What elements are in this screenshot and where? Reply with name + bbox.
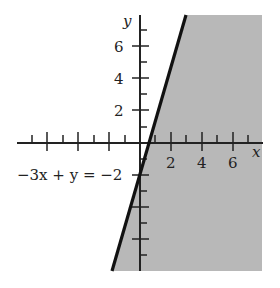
- x-tick-label-4: 4: [197, 154, 207, 172]
- equation-label: −3x + y = −2: [17, 166, 122, 184]
- y-tick-label-2: 2: [114, 102, 124, 120]
- x-axis-label: x: [252, 143, 261, 161]
- y-tick-label-6: 6: [114, 38, 124, 56]
- x-tick-label-2: 2: [166, 154, 176, 172]
- inequality-graph: y 6 4 2 2 4 6 x −3x + y = −2: [0, 0, 280, 288]
- y-axis-label: y: [122, 12, 132, 30]
- y-tick-label-4: 4: [114, 70, 124, 88]
- x-tick-label-6: 6: [228, 154, 238, 172]
